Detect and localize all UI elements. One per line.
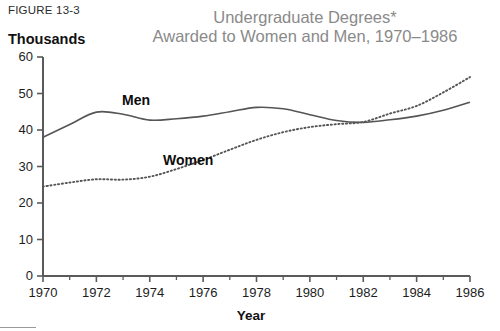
series-label-women: Women [163,152,213,168]
x-tick-label: 1972 [73,285,119,300]
y-tick-label: 50 [7,86,33,101]
page-edge-rule [0,327,36,328]
x-tick-label: 1986 [447,285,493,300]
y-tick-label: 30 [7,159,33,174]
x-tick-label: 1978 [234,285,280,300]
chart-series-group [43,77,470,187]
y-tick-label: 10 [7,232,33,247]
x-tick-label: 1974 [127,285,173,300]
x-axis-title: Year [206,308,296,323]
series-label-men: Men [122,92,150,108]
x-tick-label: 1970 [20,285,66,300]
series-line-women [43,77,470,187]
x-tick-label: 1982 [340,285,386,300]
x-tick-label: 1976 [180,285,226,300]
x-tick-label: 1980 [287,285,333,300]
line-chart-plot [0,0,500,331]
y-tick-label: 60 [7,49,33,64]
y-tick-label: 40 [7,122,33,137]
figure-container: FIGURE 13-3 Thousands Undergraduate Degr… [0,0,500,331]
series-line-men [43,102,470,137]
chart-axes [43,57,470,276]
y-tick-label: 20 [7,195,33,210]
y-tick-label: 0 [7,268,33,283]
x-tick-label: 1984 [394,285,440,300]
